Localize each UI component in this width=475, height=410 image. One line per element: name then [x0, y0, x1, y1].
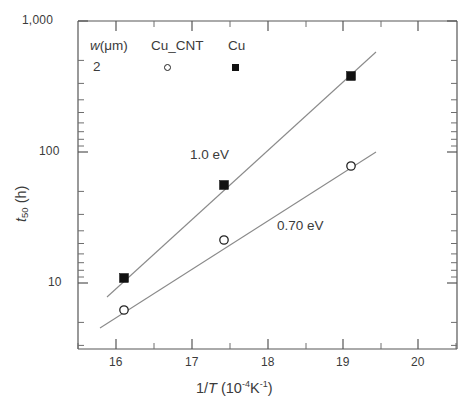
y-axis-title-sub-50: 50: [19, 207, 30, 218]
x-axis-title-lead: 1/: [196, 380, 208, 396]
y-major-ticks: [78, 21, 457, 283]
x-tick-label-19: 19: [336, 356, 350, 368]
x-tick-label-17: 17: [185, 356, 199, 368]
x-axis-title-kelvin: K: [250, 380, 260, 396]
series-cu-cnt-markers: [120, 162, 355, 314]
y-tick-label-10: 10: [48, 276, 62, 288]
legend-row-width-value: 2: [93, 60, 101, 74]
legend-marker-cu-square-icon: [232, 64, 239, 71]
x-axis-title-mid: (10: [217, 380, 242, 396]
legend-header-width-unit: (μm): [100, 38, 128, 53]
x-axis-title-sup-4: -4: [242, 379, 250, 389]
y-axis-title: t50 (h): [14, 186, 30, 222]
chart-figure: 1,000 100 10 16 17 18 19 20 1/T (10-4K-1…: [0, 0, 475, 410]
annotation-1-0-ev: 1.0 eV: [190, 148, 229, 162]
legend-header-width-italic: w: [90, 38, 100, 53]
axis-frame: [78, 21, 457, 349]
data-point-cu-cnt-2: [220, 236, 228, 244]
data-point-cu-3: [347, 72, 356, 81]
x-minor-ticks: [78, 21, 456, 349]
x-major-ticks: [116, 21, 418, 349]
fit-line-cu: [107, 52, 376, 297]
legend-header-cu: Cu: [228, 39, 245, 53]
x-axis-title: 1/T (10-4K-1): [196, 380, 273, 395]
plot-canvas: [0, 0, 475, 410]
x-tick-label-16: 16: [109, 356, 123, 368]
x-tick-label-18: 18: [261, 356, 275, 368]
y-tick-label-1000: 1,000: [22, 14, 53, 26]
y-minor-ticks: [78, 60, 457, 345]
x-axis-title-italic-t: T: [208, 380, 217, 396]
annotation-0-70-ev: 0.70 eV: [277, 219, 324, 233]
x-axis-title-tail: ): [268, 380, 273, 396]
data-point-cu-cnt-3: [347, 162, 355, 170]
y-axis-title-italic-t: t: [13, 218, 29, 222]
y-tick-label-100: 100: [39, 145, 60, 157]
data-point-cu-1: [120, 274, 129, 283]
x-tick-label-20: 20: [411, 356, 425, 368]
y-axis-title-tail: (h): [13, 186, 29, 208]
data-point-cu-cnt-1: [120, 306, 128, 314]
data-point-cu-2: [220, 181, 229, 190]
x-axis-title-sup-inv: -1: [260, 379, 268, 389]
legend-header-width: w(μm): [90, 39, 128, 53]
legend-header-cu-cnt: Cu_CNT: [151, 39, 204, 53]
legend-marker-cu-cnt-circle-icon: [164, 64, 171, 71]
